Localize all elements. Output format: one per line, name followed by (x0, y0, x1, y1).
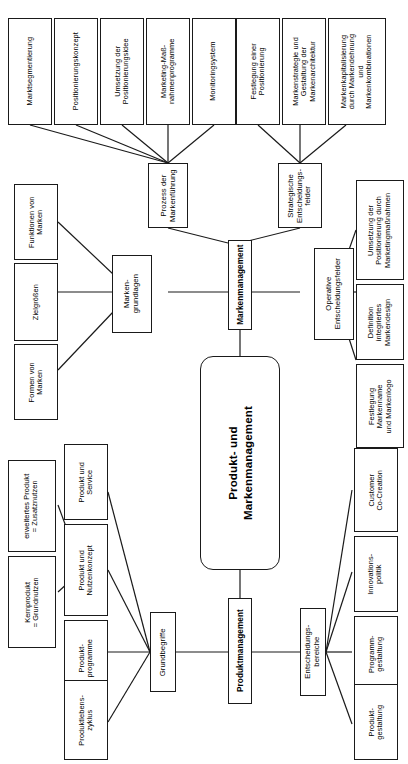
node-label: Markenmanagement (235, 245, 244, 325)
node-customer-co-creation[interactable]: Customer Co-Creation (354, 448, 398, 532)
node-festlegung-positionierung[interactable]: Festlegung einer Positionierung (236, 18, 280, 125)
node-produkt-und-nutzenkonzept[interactable]: Produkt und Nutzenkonzept (64, 524, 108, 616)
node-programmgestaltung[interactable]: Programm- gestaltung (354, 616, 398, 692)
node-innovationspolitik[interactable]: Innovations- politik (354, 536, 398, 612)
node-festlegung-markenname-markenlogo[interactable]: Festlegung Markenname und Markenlogo (356, 364, 404, 448)
node-definition-integriertes-markendesign[interactable]: Definition integriertes Markendesign (356, 284, 404, 360)
node-umsetzung-positionierungsidee[interactable]: Umsetzung der Positionierungsidee (100, 18, 144, 125)
node-umsetzung-positionierung-marketingmassnahmen[interactable]: Umsetzung der Positionierung durch Marke… (356, 180, 404, 280)
node-label: Strategische Entscheidungs- felder (287, 168, 313, 222)
node-positionierungskonzept[interactable]: Positionierungskonzept (54, 18, 98, 125)
node-label: Marketing-Maß- nahmenprogramme (160, 39, 177, 105)
node-label: Festlegung Markenname und Markenlogo (368, 379, 393, 433)
node-label: Markenkapitalisierung durch Markendehnun… (340, 34, 373, 109)
node-label: Produkt und Nutzenkonzept (78, 545, 95, 595)
node-label: Produktlebens- zyklus (78, 695, 95, 746)
node-label: Innovations- politik (368, 553, 385, 594)
node-produktgestaltung[interactable]: Produkt- gestaltung (354, 684, 398, 760)
node-label: Produktmanagement (235, 610, 244, 693)
node-produktlebenszyklus[interactable]: Produktlebens- zyklus (64, 680, 108, 760)
node-label: Programm- gestaltung (368, 635, 385, 673)
node-label: Produkt- programme (78, 639, 95, 677)
node-label: Kernprodukt = Grundnutzen (24, 577, 41, 627)
node-markenkapitalisierung[interactable]: Markenkapitalisierung durch Markendehnun… (328, 18, 386, 125)
node-label: Marken- grundlagen (123, 274, 140, 313)
node-label: Umsetzung der Positionierungsidee (114, 39, 131, 105)
node-label: Zielgrößen (32, 284, 40, 320)
node-root-produkt-und-markenmanagement[interactable]: Produkt- und Markenmanagement (200, 356, 280, 570)
node-label: Entscheidungs- bereiche (304, 625, 321, 679)
node-prozess-der-markenfuehrung[interactable]: Prozess der Markenführung (148, 163, 188, 228)
node-strategische-entscheidungsfelder[interactable]: Strategische Entscheidungs- felder (278, 163, 322, 228)
node-formen-von-marken[interactable]: Formen von Marken (14, 344, 58, 420)
node-operative-entscheidungsfelder[interactable]: Operative Entscheidungsfelder (314, 248, 354, 340)
node-label: Customer Co-Creation (368, 470, 385, 511)
node-markenstrategie-markenarchitektur[interactable]: Markenstrategie und Gestaltung der Marke… (282, 18, 326, 125)
node-label: Prozess der Markenführung (159, 169, 176, 222)
node-markenmanagement[interactable]: Markenmanagement (228, 240, 252, 330)
node-label: Definition integriertes Markendesign (368, 298, 393, 345)
node-marktsegmentierung[interactable]: Marktsegmentierung (8, 18, 52, 125)
node-grundbegriffe[interactable]: Grundbegriffe (150, 612, 176, 692)
node-funktionen-von-marken[interactable]: Funktionen von Marken (14, 184, 58, 260)
node-kernprodukt[interactable]: Kernprodukt = Grundnutzen (8, 556, 56, 648)
node-zielgroessen[interactable]: Zielgrößen (14, 263, 58, 341)
node-produkt-und-service[interactable]: Produkt und Service (64, 444, 108, 520)
node-label: Festlegung einer Positionierung (250, 43, 267, 99)
node-produktmanagement[interactable]: Produktmanagement (228, 598, 252, 704)
node-label: Monitoringsystem (210, 42, 218, 101)
node-label: erweitertes Produkt = Zusatznutzen (24, 473, 41, 538)
diagram-canvas: Marktsegmentierung Positionierungskonzep… (0, 0, 408, 764)
node-label: Formen von Marken (28, 362, 45, 402)
node-label: Positionierungskonzept (72, 32, 80, 110)
node-label: Produkt und Service (78, 462, 95, 503)
node-label: Operative Entscheidungsfelder (325, 258, 342, 329)
node-label: Grundbegriffe (159, 628, 168, 676)
node-label: Funktionen von Marken (28, 196, 45, 248)
node-label: Produkt- gestaltung (368, 705, 385, 740)
node-erweitertes-produkt[interactable]: erweitertes Produkt = Zusatznutzen (8, 460, 56, 552)
node-label: Marktsegmentierung (26, 37, 34, 106)
node-label: Markenstrategie und Gestaltung der Marke… (292, 37, 317, 106)
node-monitoringsystem[interactable]: Monitoringsystem (192, 18, 236, 125)
node-label: Umsetzung der Positionierung durch Marke… (368, 192, 393, 267)
node-label: Produkt- und Markenmanagement (225, 406, 255, 520)
node-markengrundlagen[interactable]: Marken- grundlagen (112, 255, 152, 333)
node-entscheidungsbereiche[interactable]: Entscheidungs- bereiche (300, 608, 326, 696)
node-marketing-massnahmenprogramme[interactable]: Marketing-Maß- nahmenprogramme (146, 18, 190, 125)
